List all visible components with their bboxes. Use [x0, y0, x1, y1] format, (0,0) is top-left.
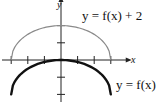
upper-curve-label: y = f(x) + 2 — [82, 9, 142, 22]
y-axis-label: y — [57, 0, 61, 10]
function-shift-graph: y x y = f(x) + 2 y = f(x) — [0, 0, 162, 102]
lower-curve-label: y = f(x) — [116, 78, 156, 91]
x-axis-label: x — [131, 55, 135, 65]
